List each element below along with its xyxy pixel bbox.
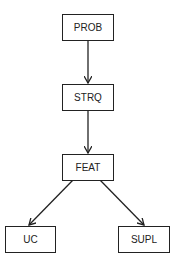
node-feat: FEAT: [62, 154, 114, 181]
node-uc: UC: [5, 226, 56, 253]
edge-feat-supl: [100, 180, 144, 225]
node-supl: SUPL: [118, 226, 170, 253]
node-feat-label: FEAT: [76, 162, 101, 173]
node-strq-label: STRQ: [74, 92, 102, 103]
node-prob-label: PROB: [74, 22, 102, 33]
node-supl-label: SUPL: [131, 234, 157, 245]
node-prob: PROB: [62, 14, 114, 41]
node-uc-label: UC: [23, 234, 37, 245]
edge-feat-uc: [29, 180, 73, 225]
node-strq: STRQ: [62, 84, 114, 111]
